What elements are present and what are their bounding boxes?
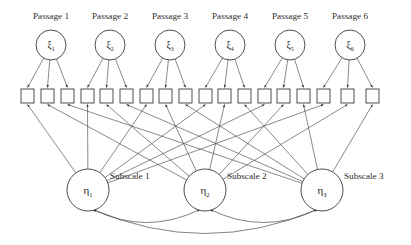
indicator-square (179, 89, 192, 103)
passage-label: Passage 2 (92, 11, 128, 21)
indicator-squares-group (21, 89, 379, 103)
correlation-curves-group (93, 210, 317, 234)
passage-label: Passage 5 (272, 11, 308, 21)
eta-loading-arrow (219, 105, 283, 175)
xi-loading-arrow (175, 59, 185, 87)
indicator-square (317, 89, 330, 103)
xi-loading-arrow (284, 60, 288, 88)
xi-loading-arrow (28, 58, 44, 87)
subscale-label: Subscale 3 (344, 171, 384, 181)
xi-loading-arrow (235, 59, 245, 87)
indicator-square (61, 89, 74, 103)
xi-loading-arrow (56, 59, 67, 88)
sem-path-diagram: ξ1ξ2ξ3ξ4ξ5ξ6 η1η2η3 Passage 1Passage 2Pa… (0, 0, 411, 245)
indicator-square (81, 89, 94, 103)
indicator-square (258, 89, 271, 103)
indicator-square (277, 89, 290, 103)
xi-loading-arrow (166, 60, 169, 88)
passage-label: Passage 3 (152, 11, 188, 21)
indicator-square (218, 89, 231, 103)
xi-loading-arrow (295, 59, 304, 87)
xi-loading-arrow (348, 60, 350, 88)
eta-loading-arrow (210, 105, 225, 170)
indicator-square (21, 89, 34, 103)
indicator-square (120, 89, 133, 103)
xi-loading-arrow (324, 58, 343, 88)
xi-loading-arrow (88, 58, 103, 87)
eta-loading-arrow (105, 105, 206, 178)
xi-loading-arrow (115, 59, 126, 88)
xi-loading-arrow (147, 58, 163, 87)
eta-loading-arrow (107, 105, 190, 177)
diagram-canvas: ξ1ξ2ξ3ξ4ξ5ξ6 η1η2η3 Passage 1Passage 2Pa… (0, 0, 411, 245)
eta-loading-arrow (100, 105, 147, 173)
indicator-square (140, 89, 153, 103)
xi-loading-arrow (357, 58, 372, 87)
factor-correlation-curve (93, 210, 317, 234)
xi-loading-arrow (265, 58, 283, 88)
eta-loading-arrow (245, 105, 308, 175)
indicator-square (341, 89, 354, 103)
xi-loading-arrow (206, 58, 223, 88)
eta-loading-arrow (186, 105, 305, 179)
passage-label: Passage 6 (332, 11, 368, 21)
subscale-label: Subscale 2 (227, 171, 267, 181)
xi-loading-paths-group (28, 58, 373, 88)
eta-loading-arrow (28, 105, 76, 173)
xi-loading-arrow (225, 60, 229, 88)
xi-loading-arrow (48, 60, 50, 88)
indicator-square (238, 89, 251, 103)
indicator-square (366, 89, 379, 103)
indicator-square (199, 89, 212, 103)
exogenous-factor-group: ξ1ξ2ξ3ξ4ξ5ξ6 (36, 30, 365, 60)
indicator-square (100, 89, 113, 103)
xi-loading-arrow (107, 60, 109, 88)
indicator-square (41, 89, 54, 103)
eta-loading-arrow (68, 105, 303, 184)
passage-label: Passage 4 (212, 11, 248, 21)
subscale-label: Subscale 1 (110, 171, 150, 181)
passage-label: Passage 1 (33, 11, 69, 21)
eta-loading-arrow (107, 105, 265, 181)
eta-loading-arrow (333, 105, 373, 172)
indicator-square (159, 89, 172, 103)
indicator-square (297, 89, 310, 103)
eta-loading-arrow (304, 105, 318, 170)
